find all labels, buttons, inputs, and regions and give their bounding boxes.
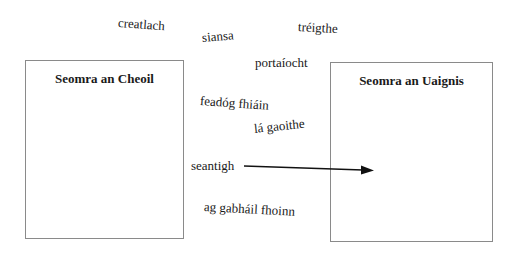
arrow-connector xyxy=(0,0,515,254)
arrowhead-icon xyxy=(361,166,374,175)
